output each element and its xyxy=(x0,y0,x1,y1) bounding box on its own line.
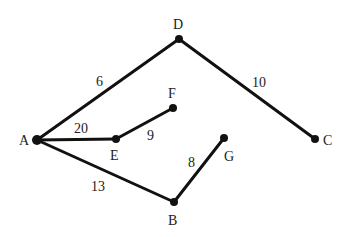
edge-weight-b-g: 8 xyxy=(188,155,195,170)
node-f xyxy=(169,104,177,112)
edge-b-g xyxy=(174,138,224,202)
node-a xyxy=(32,135,42,145)
edge-a-b xyxy=(37,140,174,202)
edge-weight-d-c: 10 xyxy=(252,75,266,90)
edge-weight-a-d: 6 xyxy=(96,74,103,89)
node-label-e: E xyxy=(110,148,119,163)
weighted-graph-diagram: 610209138ADCEFGB xyxy=(0,0,347,237)
labels: 610209138ADCEFGB xyxy=(19,17,332,228)
node-label-d: D xyxy=(173,17,183,32)
edge-a-e xyxy=(37,139,116,140)
node-label-a: A xyxy=(19,133,30,148)
node-e xyxy=(112,135,120,143)
node-label-f: F xyxy=(168,86,176,101)
node-label-c: C xyxy=(323,133,332,148)
edge-weight-a-b: 13 xyxy=(91,179,105,194)
edge-a-d xyxy=(37,39,179,140)
node-g xyxy=(220,134,228,142)
node-d xyxy=(175,35,183,43)
node-b xyxy=(170,198,178,206)
node-label-b: B xyxy=(168,213,177,228)
node-c xyxy=(311,135,319,143)
edge-weight-e-f: 9 xyxy=(147,128,154,143)
edge-e-f xyxy=(116,108,173,139)
node-label-g: G xyxy=(224,149,234,164)
edge-d-c xyxy=(179,39,315,139)
edge-weight-a-e: 20 xyxy=(74,121,88,136)
